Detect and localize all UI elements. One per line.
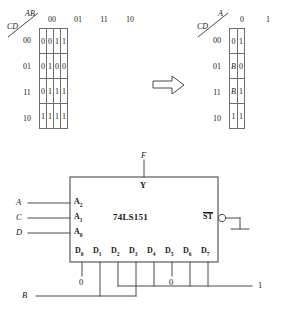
- kmap-cell: 0: [230, 29, 238, 54]
- kmap-right-col-header: 0: [230, 15, 254, 24]
- kmap-cell: 1: [47, 54, 54, 79]
- kmap-left-col-header: 01: [66, 15, 90, 24]
- address-pin-a0-index: 0: [80, 232, 83, 238]
- constant-zero-left: 0: [79, 277, 83, 287]
- kmap-left-col-header: 00: [40, 15, 64, 24]
- figure-root: AB CD 00 01 11 10 00 01 11 10 0 0 1 1 0 …: [0, 0, 287, 317]
- kmap-right-grid: 0 1 B 0 B 1 1 1: [229, 28, 245, 129]
- kmap-left-col-var-label: AB: [25, 9, 35, 18]
- table-row: 1 1 1 1: [40, 104, 68, 129]
- kmap-cell: 0: [54, 54, 61, 79]
- kmap-cell: 0: [47, 29, 54, 54]
- data-pin-d0: D0: [75, 246, 84, 257]
- kmap-cell: 1: [47, 79, 54, 104]
- kmap-left-col-header: 10: [118, 15, 142, 24]
- data-pin-d5-index: 5: [171, 251, 174, 257]
- strobe-pin-label: ST: [203, 212, 213, 221]
- transform-arrow-icon: [152, 75, 186, 95]
- table-row: B 0: [230, 54, 245, 79]
- kmap-right-col-header: 1: [256, 15, 280, 24]
- kmap-left-row-header: 10: [18, 114, 36, 123]
- input-signal-c: C: [16, 212, 22, 222]
- kmap-cell: 1: [40, 104, 47, 129]
- multiplexer-circuit: F Y 74LS151 A C D A2 A1 A0 ST D0 D1 D2: [0, 150, 287, 317]
- output-signal-label: F: [141, 150, 146, 160]
- address-pin-a1-index: 1: [80, 217, 83, 223]
- data-pin-d1: D1: [93, 246, 102, 257]
- kmap-cell: 1: [54, 104, 61, 129]
- kmap-right-col-var-label: A: [218, 9, 223, 18]
- address-pin-a0: A0: [74, 227, 83, 238]
- table-row: 0 1 1 1: [40, 79, 68, 104]
- kmap-cell: 1: [237, 79, 244, 104]
- kmap-right-row-header: 10: [208, 114, 226, 123]
- kmap-cell: 1: [54, 79, 61, 104]
- address-pin-a2-index: 2: [80, 202, 83, 208]
- data-pin-d2-index: 2: [117, 251, 120, 257]
- circuit-wiring: [0, 150, 287, 317]
- data-pin-d7: D7: [201, 246, 210, 257]
- address-pin-a2: A2: [74, 197, 83, 208]
- kmap-left-row-header: 00: [18, 36, 36, 45]
- kmap-left-row-header: 11: [18, 88, 36, 97]
- bus-b-label: B: [22, 290, 27, 300]
- input-signal-a: A: [16, 197, 21, 207]
- kmap-cell: 1: [47, 104, 54, 129]
- data-pin-d6-index: 6: [189, 251, 192, 257]
- kmap-cell: 0: [237, 54, 244, 79]
- chip-label: 74LS151: [113, 212, 148, 222]
- data-pin-d3-index: 3: [135, 251, 138, 257]
- data-pin-d5: D5: [165, 246, 174, 257]
- kmap-left-grid: 0 0 1 1 0 1 0 0 0 1 1 1 1 1 1 1: [39, 28, 68, 129]
- table-row: 1 1: [230, 104, 245, 129]
- kmap-cell: 0: [40, 54, 47, 79]
- bus-one-label: 1: [258, 280, 262, 290]
- data-pin-d7-index: 7: [207, 251, 210, 257]
- table-row: B 1: [230, 79, 245, 104]
- data-pin-d2: D2: [111, 246, 120, 257]
- address-pin-a1: A1: [74, 212, 83, 223]
- kmap-right-row-var-label: CD: [197, 22, 208, 31]
- data-pin-d3: D3: [129, 246, 138, 257]
- table-row: 0 0 1 1: [40, 29, 68, 54]
- data-pin-d4: D4: [147, 246, 156, 257]
- constant-zero-right: 0: [169, 277, 173, 287]
- kmap-cell: B: [230, 54, 238, 79]
- input-signal-d: D: [16, 227, 22, 237]
- kmap-cell: 1: [61, 79, 68, 104]
- kmap-right-row-header: 11: [208, 88, 226, 97]
- output-pin-label: Y: [140, 180, 146, 190]
- table-row: 0 1: [230, 29, 245, 54]
- kmap-right-row-header: 00: [208, 36, 226, 45]
- kmap-left-col-header: 11: [92, 15, 116, 24]
- data-pin-d1-index: 1: [99, 251, 102, 257]
- kmap-cell: 0: [40, 29, 47, 54]
- kmap-cell: 1: [237, 29, 244, 54]
- kmap-right-row-header: 01: [208, 62, 226, 71]
- kmap-cell: 1: [61, 29, 68, 54]
- kmap-cell: 1: [54, 29, 61, 54]
- strobe-pin-text: ST: [203, 212, 213, 221]
- kmap-cell: B: [230, 79, 238, 104]
- kmap-left-row-header: 01: [18, 62, 36, 71]
- kmap-cell: 1: [237, 104, 244, 129]
- table-row: 0 1 0 0: [40, 54, 68, 79]
- data-pin-d4-index: 4: [153, 251, 156, 257]
- kmap-left-row-var-label: CD: [7, 22, 18, 31]
- kmap-cell: 1: [61, 104, 68, 129]
- data-pin-d6: D6: [183, 246, 192, 257]
- kmap-cell: 0: [61, 54, 68, 79]
- kmap-cell: 0: [40, 79, 47, 104]
- data-pin-d0-index: 0: [81, 251, 84, 257]
- kmap-cell: 1: [230, 104, 238, 129]
